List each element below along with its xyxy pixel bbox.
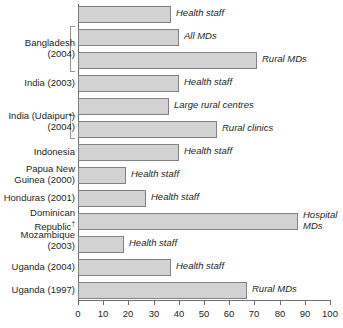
bar xyxy=(78,52,257,69)
x-axis-tick-label: 50 xyxy=(199,308,210,319)
bar xyxy=(78,167,126,184)
x-axis-tick xyxy=(204,300,205,305)
x-axis-tick-label: 10 xyxy=(98,308,109,319)
bar-value-label: Health staff xyxy=(176,260,224,271)
bar-value-label: Rural MDs xyxy=(252,283,297,294)
category-label-line1: Honduras (2001) xyxy=(0,193,75,204)
bar-value-label: Health staff xyxy=(129,237,177,248)
bar-value-label: Health staff xyxy=(131,168,179,179)
category-label-line1: Papua New xyxy=(0,164,75,175)
x-axis-tick xyxy=(78,300,79,305)
x-axis-tick-label: 40 xyxy=(174,308,185,319)
x-axis-tick xyxy=(305,300,306,305)
x-axis-tick-label: 70 xyxy=(249,308,260,319)
bar xyxy=(78,144,179,161)
bar xyxy=(78,190,146,207)
category-label-line2: Guinea (2000) xyxy=(0,175,75,186)
category-label-line1: Bangladesh xyxy=(0,38,75,49)
category-label-honduras: Honduras (2001) xyxy=(0,193,75,204)
bar xyxy=(78,6,171,23)
category-label-bangladesh: Bangladesh (2004) xyxy=(0,38,75,59)
category-label-indonesia: Indonesia xyxy=(0,147,75,158)
x-axis-tick xyxy=(280,300,281,305)
bar xyxy=(78,121,217,138)
bar xyxy=(78,236,124,253)
bar-value-label: Large rural centres xyxy=(174,99,254,110)
category-label-line1: India (2003) xyxy=(0,78,75,89)
category-label-line1: Uganda (2004) xyxy=(0,262,75,273)
x-axis-tick-label: 80 xyxy=(275,308,286,319)
category-label-line1: Uganda (1997) xyxy=(0,285,75,296)
bar-row: Health staff xyxy=(0,4,343,26)
x-axis-tick xyxy=(154,300,155,305)
category-label-line2: (2003) xyxy=(0,241,75,252)
horizontal-bar-chart: Health staff All MDs Rural MDs Health st… xyxy=(0,0,343,328)
bar xyxy=(78,259,171,276)
bar-value-label: Health staff xyxy=(151,191,199,202)
bar xyxy=(78,213,298,230)
x-axis-tick xyxy=(179,300,180,305)
category-label-line1: India (Udaipur*) xyxy=(0,111,75,122)
bar-value-label: Rural clinics xyxy=(222,122,273,133)
category-label-line2: (2004) xyxy=(0,49,75,60)
x-axis-tick-label: 90 xyxy=(300,308,311,319)
category-label-mozambique: Mozambique (2003) xyxy=(0,230,75,251)
bar-value-label: All MDs xyxy=(184,30,217,41)
bar-value-label: Rural MDs xyxy=(262,53,307,64)
x-axis-tick-label: 20 xyxy=(123,308,134,319)
category-label-line1: Mozambique xyxy=(0,230,75,241)
bar xyxy=(78,98,169,115)
category-label-uganda-2004: Uganda (2004) xyxy=(0,262,75,273)
category-label-india-2003: India (2003) xyxy=(0,78,75,89)
x-axis-tick xyxy=(128,300,129,305)
bar xyxy=(78,75,179,92)
x-axis-tick-label: 30 xyxy=(149,308,160,319)
category-label-line2: (2004) xyxy=(0,122,75,133)
bar-value-label: Health staff xyxy=(176,7,224,18)
x-axis-tick xyxy=(103,300,104,305)
footnote-marker-dagger: † xyxy=(71,220,75,227)
x-axis-tick xyxy=(229,300,230,305)
bar xyxy=(78,282,247,299)
bar-value-label: Health staff xyxy=(184,76,232,87)
x-axis-tick xyxy=(330,300,331,305)
bar-value-label: Hospital MDs xyxy=(303,209,337,231)
category-label-papua-new-guinea: Papua New Guinea (2000) xyxy=(0,164,75,185)
category-label-line1: Indonesia xyxy=(0,147,75,158)
category-label-line1: Dominican xyxy=(0,208,75,219)
x-axis-tick xyxy=(254,300,255,305)
bar xyxy=(78,29,179,46)
category-label-uganda-1997: Uganda (1997) xyxy=(0,285,75,296)
x-axis-tick-label: 60 xyxy=(224,308,235,319)
category-label-india-udaipur: India (Udaipur*) (2004) xyxy=(0,111,75,132)
x-axis-tick-label: 100 xyxy=(322,308,338,319)
bar-value-label: Health staff xyxy=(184,145,232,156)
x-axis-tick-label: 0 xyxy=(75,308,80,319)
